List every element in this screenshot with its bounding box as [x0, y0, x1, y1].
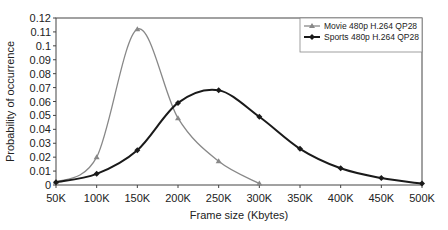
y-tick-label: 0.11: [30, 26, 51, 38]
x-tick-label: 200K: [165, 192, 191, 204]
diamond-marker: [419, 181, 425, 187]
y-tick-label: 0.07: [30, 82, 51, 94]
y-tick-label: 0.04: [30, 123, 51, 135]
y-tick-label: 0.08: [30, 68, 51, 80]
y-tick-label: 0.01: [30, 165, 51, 177]
x-tick-label: 300K: [246, 192, 272, 204]
x-tick-label: 250K: [206, 192, 232, 204]
y-axis-label: Probability of occurrence: [4, 41, 16, 162]
series-line: [56, 29, 259, 184]
y-tick-label: 0.05: [30, 109, 51, 121]
diamond-marker: [338, 165, 344, 171]
diamond-marker: [378, 175, 384, 181]
y-tick-label: 0.1: [36, 40, 51, 52]
line-chart: 00.010.020.030.040.050.060.070.080.090.1…: [0, 0, 448, 230]
diamond-marker: [94, 171, 100, 177]
x-tick-label: 500K: [409, 192, 435, 204]
x-tick-label: 100K: [84, 192, 110, 204]
y-tick-label: 0.03: [30, 137, 51, 149]
x-axis-label: Frame size (Kbytes): [190, 209, 288, 221]
legend-label: Movie 480p H.264 QP28: [324, 21, 417, 31]
diamond-marker: [216, 87, 222, 93]
x-tick-label: 350K: [287, 192, 313, 204]
y-tick-label: 0.02: [30, 151, 51, 163]
x-tick-label: 50K: [46, 192, 66, 204]
y-tick-label: 0.09: [30, 54, 51, 66]
y-tick-label: 0: [45, 179, 51, 191]
triangle-marker: [94, 154, 100, 159]
series-line: [56, 90, 422, 184]
x-tick-label: 150K: [124, 192, 150, 204]
diamond-marker: [53, 179, 59, 185]
x-tick-label: 450K: [368, 192, 394, 204]
triangle-marker: [175, 115, 181, 120]
x-tick-label: 400K: [328, 192, 354, 204]
y-tick-label: 0.06: [30, 96, 51, 108]
y-tick-label: 0.12: [30, 12, 51, 24]
legend-label: Sports 480p H.264 QP28: [324, 32, 419, 42]
